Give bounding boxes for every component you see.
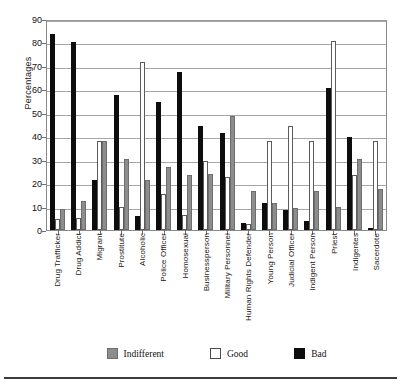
- y-axis-tick-mark: [42, 161, 46, 162]
- footer-rule: [4, 377, 397, 379]
- legend-swatch-good: [210, 348, 221, 359]
- bar-indifferent: [145, 180, 150, 230]
- x-axis-label-cell: Alcoholic: [131, 233, 152, 341]
- x-axis-label: Businessperson: [201, 233, 210, 291]
- bar-bad: [71, 42, 76, 230]
- bar-indifferent: [272, 203, 277, 230]
- bar-group: [47, 21, 68, 230]
- bar-indifferent: [208, 174, 213, 230]
- y-axis-tick-mark: [42, 208, 46, 209]
- x-axis-label-cell: Human Rights Defender: [238, 233, 259, 341]
- x-axis-label-cell: Indigent Person: [302, 233, 323, 341]
- bar-indifferent: [378, 189, 383, 230]
- bar-group: [322, 21, 343, 230]
- x-axis-label-cell: Indigentes: [344, 233, 365, 341]
- y-axis-tick-mark: [42, 67, 46, 68]
- x-axis-label: Homosexual: [180, 233, 189, 278]
- x-axis-label: Migrant: [95, 233, 104, 260]
- x-axis-label-cell: Businessperson: [195, 233, 216, 341]
- x-axis-label-cell: Drug Trafficker: [46, 233, 67, 341]
- x-axis-label-cell: Sacerdote: [366, 233, 387, 341]
- x-axis-label: Young Person: [265, 233, 274, 284]
- legend-item: Good: [210, 348, 248, 359]
- y-axis-tick-label: 60: [8, 85, 42, 95]
- x-axis-label: Sacerdote: [372, 233, 381, 270]
- legend-swatch-bad: [294, 348, 305, 359]
- x-axis-label: Drug Addict: [73, 233, 82, 275]
- bar-group: [132, 21, 153, 230]
- y-axis-tick-mark: [42, 20, 46, 21]
- bar-group: [238, 21, 259, 230]
- y-axis-tick-mark: [42, 231, 46, 232]
- x-axis-label-cell: Judicial Officer: [280, 233, 301, 341]
- bar-group: [365, 21, 386, 230]
- bar-group: [111, 21, 132, 230]
- x-axis-label: Human Rights Defender: [244, 233, 253, 321]
- bar-group: [68, 21, 89, 230]
- bar-indifferent: [166, 167, 171, 230]
- y-axis-tick-label: 30: [8, 156, 42, 166]
- bar-indifferent: [314, 191, 319, 230]
- bar-group: [89, 21, 110, 230]
- legend-label: Good: [227, 349, 248, 359]
- y-axis-tick-mark: [42, 184, 46, 185]
- bar-indifferent: [251, 191, 256, 230]
- bar-good: [331, 41, 336, 230]
- legend-label: Bad: [311, 349, 326, 359]
- bar-indifferent: [124, 159, 129, 231]
- legend-item: Indifferent: [107, 348, 164, 359]
- bar-indifferent: [293, 208, 298, 230]
- x-axis-label-cell: Migrant: [89, 233, 110, 341]
- x-axis-label: Indigentes: [351, 233, 360, 271]
- x-axis-label-cell: Priest: [323, 233, 344, 341]
- y-axis-tick-label: 50: [8, 109, 42, 119]
- bar-bad: [177, 72, 182, 230]
- y-axis-tick-label: 90: [8, 15, 42, 25]
- x-axis-label: Drug Trafficker: [52, 233, 61, 287]
- y-axis-tick-label: 10: [8, 203, 42, 213]
- x-axis-label-cell: Military Personnel: [217, 233, 238, 341]
- bar-indifferent: [357, 159, 362, 231]
- bar-group: [174, 21, 195, 230]
- y-axis-tick-label: 80: [8, 38, 42, 48]
- x-axis-label: Prostitute: [116, 233, 125, 268]
- bar-group: [259, 21, 280, 230]
- y-axis-tick-mark: [42, 43, 46, 44]
- y-axis-tick-label: 20: [8, 179, 42, 189]
- x-axis-label: Judicial Officer: [287, 233, 296, 287]
- y-axis-tick-label: 70: [8, 62, 42, 72]
- legend-label: Indifferent: [124, 349, 164, 359]
- chart-legend: IndifferentGoodBad: [46, 348, 387, 359]
- bar-bad: [50, 34, 55, 230]
- bar-group: [195, 21, 216, 230]
- y-axis-tick-label: 40: [8, 132, 42, 142]
- bar-indifferent: [187, 175, 192, 230]
- bar-group: [301, 21, 322, 230]
- bar-indifferent: [102, 141, 107, 230]
- x-axis-label-cell: Homosexual: [174, 233, 195, 341]
- x-axis-label-cell: Prostitute: [110, 233, 131, 341]
- bar-group: [344, 21, 365, 230]
- x-axis-label: Military Personnel: [223, 233, 232, 298]
- y-axis-tick-label: 0: [8, 226, 42, 236]
- y-axis-tick-mark: [42, 114, 46, 115]
- x-axis-label: Alcoholic: [137, 233, 146, 266]
- bar-indifferent: [60, 209, 65, 230]
- bar-group: [153, 21, 174, 230]
- bar-group: [217, 21, 238, 230]
- x-axis-label-cell: Young Person: [259, 233, 280, 341]
- bar-chart: Percentages 0102030405060708090 Drug Tra…: [0, 0, 401, 388]
- legend-item: Bad: [294, 348, 326, 359]
- bar-indifferent: [81, 201, 86, 230]
- y-axis-tick-mark: [42, 90, 46, 91]
- bar-groups: [47, 21, 386, 230]
- y-axis-tick-mark: [42, 137, 46, 138]
- bar-group: [280, 21, 301, 230]
- x-axis-label: Police Officer: [159, 233, 168, 282]
- x-axis-label: Indigent Person: [308, 233, 317, 291]
- x-axis-labels: Drug TraffickerDrug AddictMigrantProstit…: [46, 233, 387, 341]
- x-axis-label-cell: Police Officer: [153, 233, 174, 341]
- plot-area: [46, 20, 387, 231]
- legend-swatch-indifferent: [107, 348, 118, 359]
- x-axis-label-cell: Drug Addict: [67, 233, 88, 341]
